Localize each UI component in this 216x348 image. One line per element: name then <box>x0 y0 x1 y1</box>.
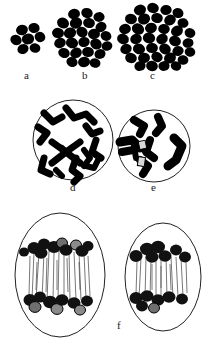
left-anaphase-cell <box>15 213 105 337</box>
panel-f-dividing-cells <box>15 213 201 337</box>
panel-label-a: a <box>24 70 29 81</box>
panel-label-e: e <box>151 182 156 193</box>
figure-plate: a b c d e f <box>0 0 216 348</box>
panel-b-cell-cluster <box>51 6 113 69</box>
panel-c-cell-cluster <box>115 1 196 72</box>
panel-label-b: b <box>82 70 88 81</box>
panel-d-nucleus <box>33 100 113 182</box>
panel-e-nucleus <box>118 110 190 182</box>
cell-wall-left <box>15 213 105 337</box>
figure-svg <box>0 0 216 348</box>
panel-label-c: c <box>150 70 155 81</box>
panel-a-cell-cluster <box>8 22 47 56</box>
panel-label-f: f <box>117 320 121 331</box>
right-anaphase-cell <box>125 223 201 331</box>
panel-label-d: d <box>70 182 76 193</box>
